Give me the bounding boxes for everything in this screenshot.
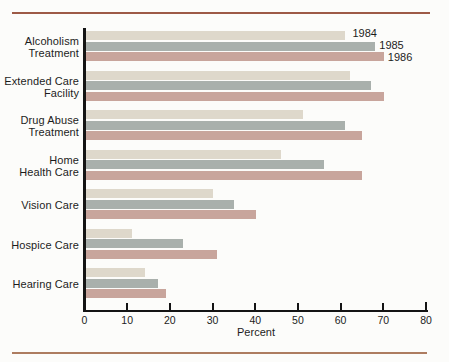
category-label-drug-abuse-treatment: Drug Abuse Treatment (0, 114, 79, 138)
x-tick-20 (169, 303, 171, 310)
bar-1984-hospice-care (85, 229, 132, 238)
bar-1986-alcoholism-treatment (85, 52, 384, 61)
bar-1985-hospice-care (85, 239, 183, 248)
x-tick-10 (126, 303, 128, 310)
bar-1986-drug-abuse-treatment (85, 131, 362, 140)
x-tick-label-50: 50 (283, 315, 313, 326)
x-tick-label-0: 0 (70, 315, 100, 326)
x-tick-50 (297, 303, 299, 310)
x-tick-label-70: 70 (368, 315, 398, 326)
bar-1986-hospice-care (85, 250, 217, 259)
x-tick-label-30: 30 (198, 315, 228, 326)
bar-1984-vision-care (85, 189, 213, 198)
bar-1984-extended-care-facility (85, 71, 350, 80)
category-label-hospice-care: Hospice Care (0, 239, 79, 251)
category-label-hearing-care: Hearing Care (0, 278, 79, 290)
x-tick-70 (382, 303, 384, 310)
x-axis-line (83, 310, 428, 313)
x-axis-title: Percent (215, 326, 297, 338)
bar-chart: Percent Alcoholism TreatmentExtended Car… (0, 0, 449, 362)
bottom-rule (12, 352, 427, 354)
x-tick-label-20: 20 (155, 315, 185, 326)
bar-1985-alcoholism-treatment (85, 42, 375, 51)
x-tick-40 (254, 303, 256, 310)
bar-1985-home-health-care (85, 160, 324, 169)
category-label-alcoholism-treatment: Alcoholism Treatment (0, 35, 79, 59)
x-tick-label-60: 60 (326, 315, 356, 326)
x-tick-label-80: 80 (411, 315, 441, 326)
bar-1985-extended-care-facility (85, 81, 371, 90)
bar-1984-hearing-care (85, 268, 145, 277)
category-label-home-health-care: Home Health Care (0, 154, 79, 178)
bar-1984-alcoholism-treatment (85, 31, 345, 40)
bar-1984-drug-abuse-treatment (85, 110, 303, 119)
x-tick-60 (340, 303, 342, 310)
x-tick-label-40: 40 (240, 315, 270, 326)
bar-1984-home-health-care (85, 150, 281, 159)
bar-1986-home-health-care (85, 171, 362, 180)
y-axis-line (83, 28, 86, 312)
series-label-1984: 1984 (352, 27, 376, 39)
series-label-1985: 1985 (379, 39, 403, 51)
bar-1986-hearing-care (85, 289, 166, 298)
chart-page: Percent Alcoholism TreatmentExtended Car… (0, 0, 449, 362)
category-label-extended-care-facility: Extended Care Facility (0, 75, 79, 99)
bar-1986-vision-care (85, 210, 256, 219)
x-tick-80 (425, 302, 427, 310)
bar-1985-vision-care (85, 200, 234, 209)
bar-1985-drug-abuse-treatment (85, 121, 345, 130)
x-tick-30 (212, 303, 214, 310)
category-label-vision-care: Vision Care (0, 199, 79, 211)
bar-1985-hearing-care (85, 279, 158, 288)
x-tick-label-10: 10 (112, 315, 142, 326)
series-label-1986: 1986 (388, 51, 412, 63)
bar-1986-extended-care-facility (85, 92, 384, 101)
